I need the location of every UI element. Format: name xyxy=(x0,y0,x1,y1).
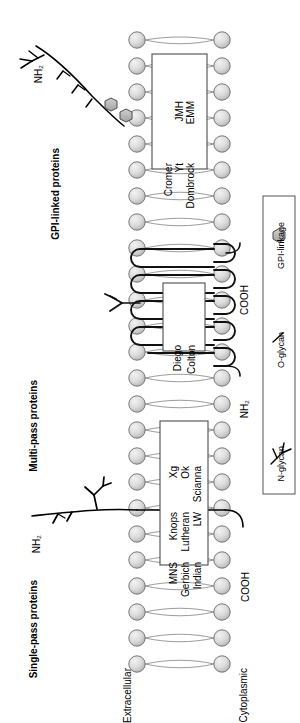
legend-label-gpi-linkage: GPI-linkage xyxy=(276,222,286,269)
singlepass-box-item-xg: Xg xyxy=(168,466,179,478)
cytoplasmic-label: Cytoplasmic xyxy=(238,668,249,722)
multipass-nh2-label: NH₂ xyxy=(239,400,250,418)
singlepass-box-item-indian: Indian xyxy=(192,562,203,589)
extracellular-label: Extracellular xyxy=(122,668,133,723)
gpi-box-item-yt: Yt xyxy=(174,163,185,172)
multipass-protein-box xyxy=(163,283,205,351)
gpi-box-item-dombrock: Dombrock xyxy=(185,163,196,209)
section-label-gpi: GPI-linked proteins xyxy=(50,148,62,240)
singlepass-nh2-label: NH₂ xyxy=(31,535,42,553)
gpi-box-item-emm: EMM xyxy=(185,101,196,124)
gpi-linked-protein-glyph xyxy=(20,46,124,126)
singlepass-box-item-gerbich: Gerbich xyxy=(180,562,191,597)
gpi-box-item-jmh: JMH xyxy=(174,101,185,122)
section-label-multipass: Multi-pass proteins xyxy=(28,380,39,472)
legend-label-o-glycan: O-glycan xyxy=(276,332,286,368)
multipass-box-item-colton: Colton xyxy=(186,345,197,374)
multipass-cooh-label: COOH xyxy=(239,285,250,315)
singlepass-cooh-label: COOH xyxy=(240,572,251,602)
gpi-nh2-label: NH₂ xyxy=(33,65,44,83)
singlepass-box-item-lw: LW xyxy=(192,512,203,526)
singlepass-box-item-mns: MNS xyxy=(168,562,179,584)
legend-label-n-glycan: N-glycan xyxy=(276,446,286,482)
singlepass-box-item-ok: Ok xyxy=(180,466,191,479)
singlepass-box-item-scianna: Scianna xyxy=(192,466,203,502)
gpi-box-item-cromer: Cromer xyxy=(163,163,174,196)
multipass-box-item-diego: Diego xyxy=(172,345,183,371)
singlepass-box-item-lutheran: Lutheran xyxy=(180,512,191,551)
gpi-linkage-hexagon-glyph xyxy=(105,98,132,122)
singlepass-box-item-knops: Knops xyxy=(168,512,179,540)
section-label-singlepass: Single-pass proteins xyxy=(28,580,39,678)
